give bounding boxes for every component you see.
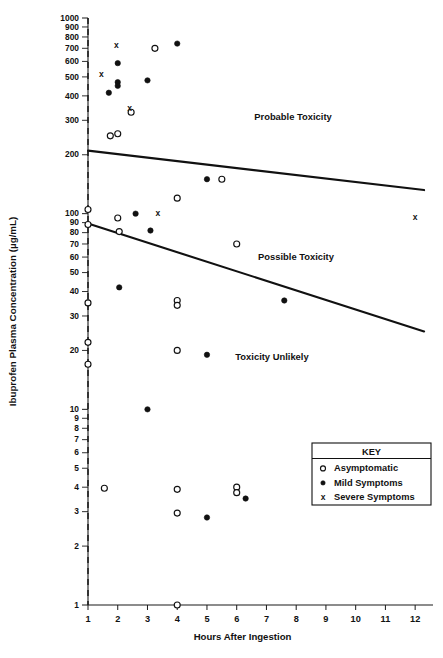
point-asymptomatic: [115, 131, 121, 137]
y-tick-label: 4: [74, 482, 79, 492]
data-points-group: xxxxx: [85, 40, 418, 608]
point-mild-symptoms: [204, 515, 209, 520]
point-mild-symptoms: [133, 211, 138, 216]
point-asymptomatic: [115, 215, 121, 221]
y-tick-label: 90: [70, 217, 80, 227]
point-mild-symptoms: [175, 41, 180, 46]
y-tick-label: 70: [70, 239, 80, 249]
point-asymptomatic: [107, 133, 113, 139]
series-asymptomatic: [85, 45, 240, 608]
y-tick-label: 60: [70, 252, 80, 262]
zone-labels-group: Probable ToxicityPossible ToxicityToxici…: [235, 111, 334, 362]
y-axis-title: Ibuprofen Plasma Concentration (µg/mL): [7, 217, 18, 407]
y-tick-label: 7: [74, 434, 79, 444]
point-asymptomatic: [234, 241, 240, 247]
point-asymptomatic: [174, 195, 180, 201]
point-asymptomatic: [85, 361, 91, 367]
probable-possible-boundary: [88, 151, 424, 190]
legend-title: KEY: [362, 447, 382, 457]
point-mild-symptoms: [148, 228, 153, 233]
y-tick-label: 300: [65, 115, 79, 125]
point-mild-symptoms: [243, 496, 248, 501]
zone-label-probable: Probable Toxicity: [254, 111, 332, 122]
point-mild-symptoms: [204, 352, 209, 357]
y-tick-label: 6: [74, 447, 79, 457]
x-tick-label: 3: [145, 614, 150, 624]
x-tick-label: 2: [115, 614, 120, 624]
x-tick-label: 7: [264, 614, 269, 624]
y-tick-label: 200: [65, 149, 79, 159]
y-tick-label: 800: [65, 32, 79, 42]
point-asymptomatic: [174, 302, 180, 308]
y-tick-label: 8: [74, 423, 79, 433]
x-tick-label: 5: [204, 614, 209, 624]
nomogram-boundary-lines: [88, 151, 424, 332]
y-tick-label: 5: [74, 463, 79, 473]
point-asymptomatic: [174, 486, 180, 492]
point-mild-symptoms: [282, 298, 287, 303]
nomogram-chart: 1234567891020304050607080901002003004005…: [0, 0, 443, 658]
y-tick-label: 700: [65, 43, 79, 53]
point-severe-symptoms: x: [99, 69, 104, 79]
y-tick-label: 9: [74, 413, 79, 423]
point-asymptomatic: [85, 339, 91, 345]
point-asymptomatic: [101, 485, 107, 491]
y-tick-label: 1: [74, 600, 79, 610]
y-tick-label: 50: [70, 267, 80, 277]
point-asymptomatic: [85, 222, 91, 228]
y-tick-label: 900: [65, 22, 79, 32]
legend-item-label: Mild Symptoms: [334, 478, 403, 488]
point-mild-symptoms: [145, 78, 150, 83]
x-tick-label: 1: [85, 614, 90, 624]
x-tick-label: 6: [234, 614, 239, 624]
axes-group: [88, 18, 433, 605]
y-tick-label: 400: [65, 91, 79, 101]
y-tick-label: 10: [70, 404, 80, 414]
point-asymptomatic: [85, 300, 91, 306]
legend-marker-open-circle: [321, 466, 326, 471]
point-mild-symptoms: [106, 90, 111, 95]
point-mild-symptoms: [115, 83, 120, 88]
possible-unlikely-boundary: [88, 224, 424, 332]
legend-item-label: Asymptomatic: [334, 463, 398, 473]
y-tick-label: 2: [74, 541, 79, 551]
point-mild-symptoms: [145, 407, 150, 412]
point-severe-symptoms: x: [114, 40, 119, 50]
point-severe-symptoms: x: [127, 103, 132, 113]
x-tick-label: 10: [351, 614, 361, 624]
figure-canvas: 1234567891020304050607080901002003004005…: [0, 0, 443, 658]
x-tick-label: 4: [175, 614, 181, 624]
y-tick-label: 600: [65, 56, 79, 66]
y-tick-label: 20: [70, 345, 80, 355]
legend-item-severe-symptoms: xSevere Symptoms: [321, 492, 415, 502]
point-asymptomatic: [152, 45, 158, 51]
x-tick-label: 11: [381, 614, 391, 624]
x-axis-ticks: 123456789101112: [85, 605, 420, 624]
point-severe-symptoms: x: [156, 208, 161, 218]
point-asymptomatic: [174, 602, 180, 608]
point-mild-symptoms: [204, 177, 209, 182]
series-severe-symptoms: xxxxx: [99, 40, 418, 222]
y-tick-label: 100: [65, 208, 79, 218]
axis-titles-group: Hours After IngestionIbuprofen Plasma Co…: [7, 217, 291, 642]
point-asymptomatic: [116, 229, 122, 235]
x-axis-title: Hours After Ingestion: [194, 631, 292, 642]
point-mild-symptoms: [115, 60, 120, 65]
x-tick-label: 12: [410, 614, 420, 624]
y-tick-label: 40: [70, 286, 80, 296]
point-asymptomatic: [174, 510, 180, 516]
y-tick-label: 500: [65, 72, 79, 82]
legend-marker-solid-circle: [321, 481, 325, 485]
point-asymptomatic: [174, 347, 180, 353]
x-tick-label: 9: [323, 614, 328, 624]
y-tick-label: 30: [70, 311, 80, 321]
point-severe-symptoms: x: [413, 212, 418, 222]
y-tick-label: 80: [70, 227, 80, 237]
zone-label-unlikely: Toxicity Unlikely: [235, 351, 309, 362]
point-mild-symptoms: [117, 285, 122, 290]
legend-item-mild-symptoms: Mild Symptoms: [321, 478, 403, 488]
point-asymptomatic: [234, 490, 240, 496]
legend-item-label: Severe Symptoms: [334, 492, 415, 502]
x-tick-label: 8: [294, 614, 299, 624]
point-asymptomatic: [219, 176, 225, 182]
